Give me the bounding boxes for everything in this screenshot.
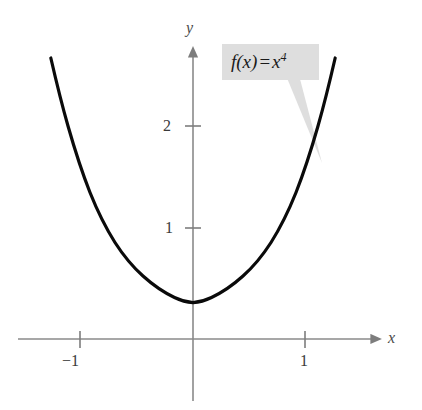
y-axis-label: y [186,20,193,36]
x-axis-label: x [388,330,395,346]
function-label-text: f(x)=x4 [231,51,287,71]
function-label-exponent: 4 [281,50,287,64]
function-label-arg: (x) [236,51,257,72]
function-graph-figure: f(x)=x4 y x 2 1 −1 1 [0,0,422,410]
y-tick-label-2: 2 [163,118,171,134]
x-tick-label-1: 1 [300,353,308,369]
y-tick-label-1: 1 [165,220,173,236]
x-tick-label-neg1: −1 [62,353,79,369]
function-label-equals: = [257,51,272,72]
function-label-base: x [272,51,280,72]
callout-tail [287,78,322,163]
plot-canvas [0,0,422,410]
